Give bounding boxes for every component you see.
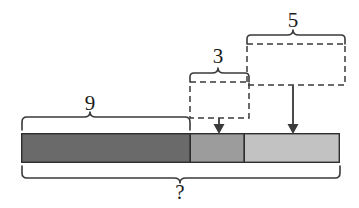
brace-three [190, 68, 249, 82]
brace-five-group: 5 [247, 8, 345, 44]
arrow-five-group [288, 85, 299, 134]
bar-segment-left [22, 134, 191, 163]
brace-three-label: 3 [213, 44, 224, 68]
brace-five [247, 30, 345, 44]
brace-nine-group: 9 [22, 91, 190, 130]
dashed-box-three [190, 82, 249, 118]
brace-nine-label: 9 [85, 91, 96, 115]
brace-question-group: ? [22, 166, 340, 204]
arrow-three-group [214, 118, 225, 134]
tape-diagram-figure: 9 3 5 ? [0, 0, 359, 208]
brace-five-label: 5 [288, 8, 299, 32]
bar-segment-right [244, 134, 339, 163]
arrow-three-head [214, 124, 225, 134]
arrow-five-head [288, 124, 299, 134]
bar-group [22, 134, 340, 163]
brace-nine [22, 112, 190, 130]
diagram-canvas: 9 3 5 ? [0, 0, 359, 208]
bar-segment-middle [190, 134, 244, 163]
brace-question-label: ? [175, 180, 184, 204]
brace-three-group: 3 [190, 44, 249, 82]
dashed-box-five [247, 44, 345, 85]
